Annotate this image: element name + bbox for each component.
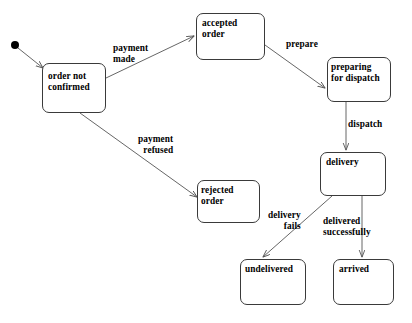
state-label-rejected-order: rejected order [201, 185, 234, 206]
state-diagram-canvas: order not confirmedaccepted orderprepari… [0, 0, 412, 323]
state-label-accepted-order: accepted order [202, 18, 237, 39]
transition-label-delivered-successfully: delivered successfully [323, 216, 371, 238]
transition-label-prepare: prepare [286, 39, 318, 50]
transition-arrow [265, 45, 325, 88]
state-label-undelivered: undelivered [245, 264, 293, 275]
state-label-arrived: arrived [339, 264, 369, 275]
transition-label-dispatch: dispatch [348, 119, 382, 130]
transition-label-payment-made: payment made [113, 43, 148, 65]
transition-arrow [18, 48, 43, 68]
state-label-delivery: delivery [326, 157, 359, 168]
state-label-order-not-confirmed: order not confirmed [48, 71, 90, 92]
transition-label-payment-refused: payment refused [138, 134, 173, 156]
initial-pseudostate-dot [11, 41, 19, 49]
state-label-preparing-for-dispatch: preparing for dispatch [331, 62, 380, 83]
transition-label-delivery-fails: delivery fails [268, 210, 301, 232]
